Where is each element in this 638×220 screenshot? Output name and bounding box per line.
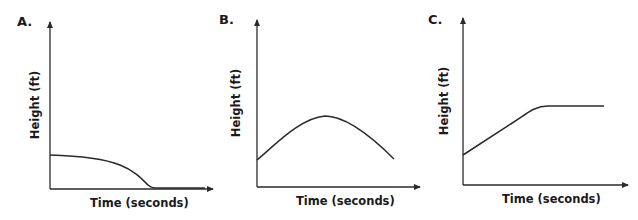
chart-b-panel-label: B. (219, 12, 234, 27)
chart-c-curve (463, 106, 604, 155)
chart-c (463, 18, 628, 185)
chart-a-y-label: Height (ft) (28, 65, 42, 145)
chart-a-panel-label: A. (17, 14, 32, 29)
chart-b-x-label: Time (seconds) (296, 194, 395, 208)
chart-a-curve (50, 155, 205, 188)
chart-b (257, 20, 420, 187)
chart-a-x-label: Time (seconds) (90, 196, 189, 210)
chart-a (50, 22, 213, 189)
chart-c-x-label: Time (seconds) (502, 192, 601, 206)
charts-canvas (0, 0, 638, 220)
chart-c-y-label: Height (ft) (437, 61, 451, 141)
chart-c-panel-label: C. (428, 12, 442, 27)
chart-b-curve (257, 116, 394, 160)
chart-b-y-label: Height (ft) (229, 63, 243, 143)
